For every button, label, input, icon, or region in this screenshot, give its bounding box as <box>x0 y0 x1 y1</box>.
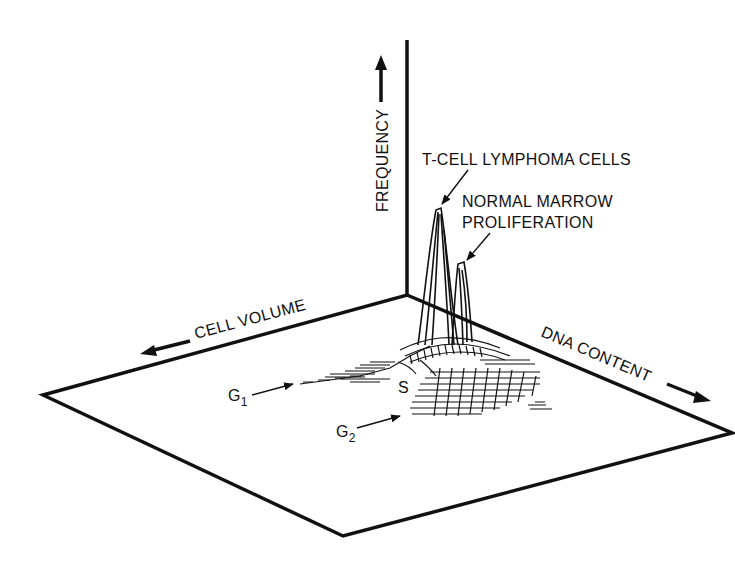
base-plane <box>43 295 732 536</box>
annotation-g2: G2 <box>336 416 400 445</box>
tcell-lymphoma-label: T-CELL LYMPHOMA CELLS <box>422 151 631 168</box>
normal-marrow-pointer-arrow-icon <box>467 233 490 260</box>
peak-normal-marrow <box>452 262 472 345</box>
frequency-axis-label: FREQUENCY <box>374 109 391 212</box>
normal-marrow-label-line1: NORMAL MARROW <box>462 193 613 210</box>
histogram-surface <box>300 338 552 416</box>
g1-pointer-arrow-icon <box>252 384 293 395</box>
g2-pointer-arrow-icon <box>357 416 400 428</box>
g2-label: G2 <box>336 423 356 445</box>
annotation-g1: G1 <box>228 384 293 409</box>
cell-volume-axis-label: CELL VOLUME <box>192 296 307 342</box>
peak-tcell-lymphoma <box>418 208 458 345</box>
s-phase-label: S <box>398 379 409 396</box>
figure-canvas: FREQUENCY CELL VOLUME DNA CONTENT <box>0 0 735 577</box>
annotation-normal-marrow: NORMAL MARROW PROLIFERATION <box>462 193 613 260</box>
frequency-label-group: FREQUENCY <box>374 55 391 212</box>
g1-label: G1 <box>228 387 248 409</box>
normal-marrow-label-line2: PROLIFERATION <box>462 214 594 231</box>
cell-volume-arrow-icon <box>150 341 190 351</box>
